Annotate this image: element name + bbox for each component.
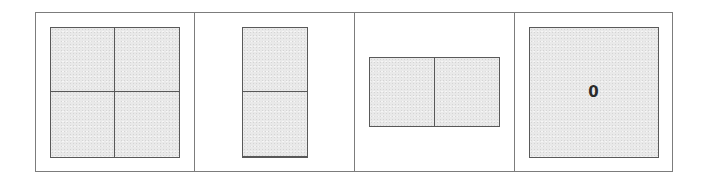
shape-wide-rectangle-2-parts: [369, 57, 500, 127]
shape-cell: [370, 58, 435, 126]
panel-plain-square: 0: [515, 13, 672, 171]
shape-cell: [115, 92, 179, 157]
shape-cell: [115, 28, 179, 93]
shape-tall-rectangle-2-parts: [242, 27, 308, 158]
shape-cell: [243, 28, 307, 93]
panel-quartered-square: [36, 13, 195, 171]
panel-halved-tall-rectangle: [195, 13, 355, 171]
shape-square-4-parts: [50, 27, 180, 158]
shape-cell: [51, 92, 115, 157]
panel-row: 0: [36, 13, 672, 171]
shape-cell: [243, 92, 307, 157]
panel-halved-wide-rectangle: [355, 13, 515, 171]
shape-square-1-part: 0: [529, 27, 659, 158]
figure-root: 0: [0, 0, 708, 187]
shape-cell: [51, 28, 115, 93]
shape-cell: [530, 28, 658, 157]
shape-cell: [435, 58, 500, 126]
outer-frame: 0: [35, 12, 673, 172]
